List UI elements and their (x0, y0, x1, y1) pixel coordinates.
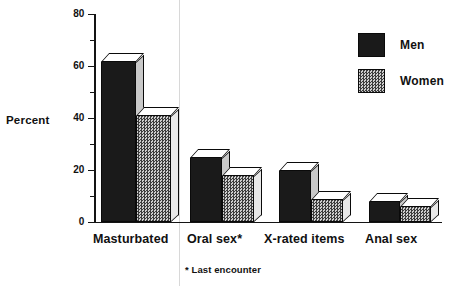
bar-masturbated-women (136, 0, 171, 222)
bar-face (369, 201, 400, 222)
y-tick-label-80-wrap: 80 (52, 8, 84, 20)
bar-masturbated-men (101, 0, 136, 222)
bar-face (311, 199, 343, 222)
y-tick-20 (88, 170, 95, 172)
y-tick-label-60: 60 (52, 60, 84, 71)
bar-x-rated-items-women (311, 0, 343, 222)
bar-face (136, 115, 171, 222)
y-tick-minor-30 (90, 144, 95, 146)
bar-side-face (171, 109, 179, 222)
y-tick-label-40-wrap: 40 (52, 112, 84, 124)
y-tick-40-hidden (88, 118, 95, 120)
y-tick-label-80: 80 (52, 8, 84, 19)
category-label-masturbated: Masturbated (93, 232, 168, 246)
y-tick-label-40: 40 (52, 112, 84, 123)
bar-x-rated-items-men (279, 0, 311, 222)
plot-area: Percent 80 40 60 20 0 (0, 0, 457, 286)
y-tick-label-0-wrap: 0 (52, 216, 84, 228)
bar-oral-sex-women (222, 0, 254, 222)
legend-swatch-women-icon (358, 69, 385, 93)
y-tick-0 (88, 222, 95, 224)
legend-swatch-men-icon (358, 33, 385, 57)
y-tick-label-20: 20 (52, 164, 84, 175)
category-label-oral-sex: Oral sex* (187, 232, 242, 246)
y-tick-minor-10 (90, 196, 95, 198)
bar-face (279, 170, 311, 222)
y-tick-80 (88, 14, 95, 16)
y-tick-label-0: 0 (52, 216, 84, 227)
y-axis-title: Percent (6, 114, 50, 126)
bar-oral-sex-men (190, 0, 222, 222)
bar-side-face (254, 169, 262, 222)
bar-face (190, 157, 222, 222)
bar-face (400, 206, 431, 222)
y-tick-60 (88, 66, 95, 68)
y-tick-minor-70 (90, 40, 95, 42)
footnote: * Last encounter (185, 264, 261, 275)
category-label-x-rated-items: X-rated items (264, 232, 345, 246)
chart-page: Percent 80 40 60 20 0 (0, 0, 457, 286)
y-tick-label-60-wrap: 60 (52, 60, 84, 72)
legend-label-men: Men (400, 38, 425, 52)
bar-face (101, 61, 136, 222)
bar-face (222, 175, 254, 222)
bar-anal-sex-women (400, 0, 431, 222)
legend-label-women: Women (400, 74, 444, 88)
y-tick-label-20-wrap: 20 (52, 164, 84, 176)
y-tick-minor-50 (90, 92, 95, 94)
category-label-anal-sex: Anal sex (365, 232, 417, 246)
